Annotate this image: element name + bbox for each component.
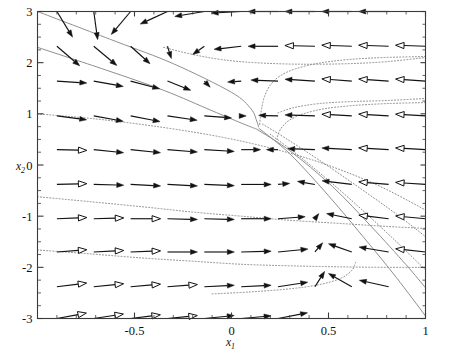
y-tick-label: 0 (26, 159, 32, 173)
arrow-shaft (204, 219, 227, 220)
y-tick-label: 2 (26, 56, 32, 70)
x-tick-label: 1 (422, 324, 428, 338)
arrow-shaft (295, 149, 315, 150)
y-tick-label: -2 (22, 261, 32, 275)
arrow-shaft (404, 46, 425, 47)
figure-background (0, 0, 449, 353)
arrow-shaft (293, 46, 314, 47)
arrow-shaft (241, 251, 264, 252)
arrow-shaft (292, 115, 315, 116)
y-tick-label: -3 (22, 312, 32, 326)
y-tick-label: -1 (22, 210, 32, 224)
phase-portrait-svg: -0.500.513210-1-2-3 x2 x1 (0, 0, 449, 353)
arrow-shaft (57, 184, 78, 185)
arrow-shaft (330, 45, 351, 46)
phase-portrait-figure: -0.500.513210-1-2-3 x2 x1 (0, 0, 449, 353)
x-tick-label: 0.5 (321, 324, 337, 338)
arrow-shaft (57, 150, 78, 151)
arrow-shaft (94, 184, 117, 185)
arrow-shaft (94, 218, 115, 219)
arrow-shaft (167, 219, 190, 220)
y-tick-label: 3 (26, 5, 32, 19)
arrow-shaft (258, 80, 278, 81)
arrow-shaft (131, 251, 152, 252)
arrow-shaft (367, 45, 388, 46)
y-tick-label: 1 (26, 107, 32, 121)
x-tick-label: -0.5 (125, 324, 145, 338)
